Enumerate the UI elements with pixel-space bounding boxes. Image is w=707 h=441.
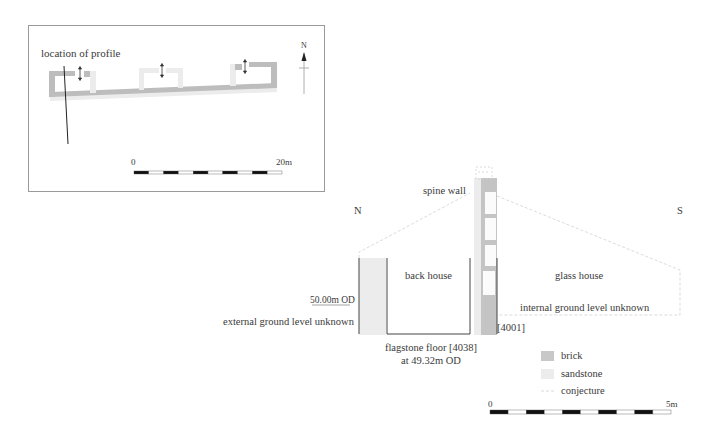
legend-label-brick: brick <box>561 351 583 362</box>
scale-segment <box>164 171 179 174</box>
floor-label-line1: flagstone floor [4038] <box>366 343 496 354</box>
north-arrow-icon <box>299 52 309 94</box>
section-sandstone-north-wall <box>359 258 386 335</box>
scale-segment <box>653 410 671 414</box>
door-arrow-icons <box>79 60 247 81</box>
section-scale-bar <box>490 410 671 414</box>
spine-opening <box>485 192 496 214</box>
scale-segment <box>526 410 544 414</box>
scale-segment <box>617 410 635 414</box>
plan-sandstone-mid-top <box>139 68 159 73</box>
section-north-roof-conjecture <box>359 193 470 258</box>
scale-segment <box>581 410 599 414</box>
legend-swatch-sandstone <box>541 369 554 379</box>
scale-segment <box>178 171 193 174</box>
section-scale-end-label: 5m <box>666 400 678 409</box>
scale-segment <box>544 410 562 414</box>
external-ground-label: external ground level unknown <box>223 317 354 328</box>
spine-wall-label: spine wall <box>423 186 466 197</box>
wall-context-label: [4001] <box>497 323 525 334</box>
legend-swatch-brick <box>541 351 554 361</box>
plan-sandstone-mid-right <box>178 68 183 88</box>
scale-segment <box>635 410 653 414</box>
scale-segment <box>267 171 282 174</box>
scale-segment <box>149 171 164 174</box>
scale-segment <box>134 171 149 174</box>
plan-sandstone-west <box>90 71 96 93</box>
scale-segment <box>238 171 253 174</box>
scale-segment <box>599 410 617 414</box>
glass-house-label: glass house <box>555 271 603 282</box>
chimney-conjecture <box>476 167 492 179</box>
od-level-label: 50.00m OD <box>310 296 355 306</box>
legend-label-conjecture: conjecture <box>561 386 605 397</box>
plan-brick-east-wall <box>271 62 277 88</box>
scale-segment <box>208 171 223 174</box>
section-south-roof-conjecture <box>497 196 680 315</box>
spine-opening <box>483 271 495 295</box>
internal-ground-label: internal ground level unknown <box>520 303 649 314</box>
scale-segment <box>193 171 208 174</box>
scale-segment <box>562 410 580 414</box>
scale-segment <box>223 171 238 174</box>
plan-walls <box>49 60 277 145</box>
plan-scale-end-label: 20m <box>276 158 292 167</box>
scale-segment <box>508 410 526 414</box>
plan-brick-east-stub <box>235 64 242 70</box>
floor-label-line2: at 49.32m OD <box>366 356 496 367</box>
section-spine-sandstone <box>474 178 482 335</box>
scale-segment <box>490 410 508 414</box>
profile-line <box>64 66 68 144</box>
plan-scale-bar <box>134 171 282 174</box>
spine-opening <box>485 245 496 266</box>
plan-brick-west-stub <box>84 71 90 77</box>
section-south-label: S <box>677 206 683 217</box>
back-house-label: back house <box>405 271 452 282</box>
north-label: N <box>301 42 307 50</box>
section-scale-start-label: 0 <box>488 400 493 409</box>
section-north-label: N <box>354 206 362 217</box>
legend-label-sandstone: sandstone <box>561 369 602 380</box>
spine-opening <box>485 218 496 240</box>
plan-brick-west-top <box>49 71 75 76</box>
location-of-profile-label: location of profile <box>41 48 120 59</box>
scale-segment <box>252 171 267 174</box>
plan-scale-start-label: 0 <box>131 158 136 167</box>
